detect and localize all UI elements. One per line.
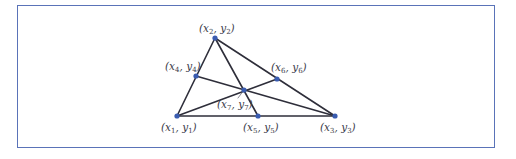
point-p5 — [255, 113, 260, 118]
triangle-cevians-diagram: (x2, y2) (x4, y4) (x6, y6) (x7, y7) (x1,… — [0, 0, 516, 159]
point-p6 — [274, 76, 279, 81]
label-p6: (x6, y6) — [271, 61, 307, 75]
point-p1 — [174, 113, 179, 118]
point-p4 — [193, 73, 198, 78]
label-p2: (x2, y2) — [199, 22, 235, 36]
cevian-p3-p4 — [196, 76, 335, 116]
label-p5: (x5, y5) — [243, 121, 279, 135]
label-p3: (x3, y3) — [320, 121, 356, 135]
point-p3 — [332, 113, 337, 118]
point-p7 — [241, 87, 246, 92]
label-p1: (x1, y1) — [161, 121, 197, 135]
label-p7: (x7, y7) — [217, 98, 253, 112]
point-p2 — [212, 35, 217, 40]
label-p4: (x4, y4) — [165, 60, 201, 74]
